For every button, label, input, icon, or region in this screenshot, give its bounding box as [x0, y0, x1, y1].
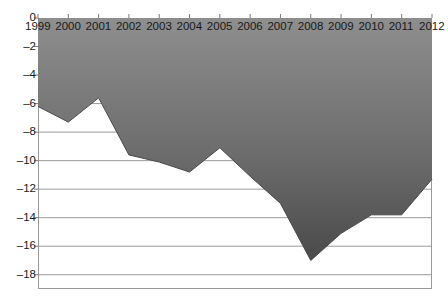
y-axis-tick-label: –14	[4, 212, 36, 223]
x-axis-tick-label: 2008	[298, 20, 324, 32]
y-axis-labels: 0–2–4–6–8–10–12–14–16–18	[0, 0, 36, 302]
x-axis-tick-label: 2000	[55, 20, 81, 32]
x-axis-tick-label: 2012	[419, 20, 445, 32]
x-axis-tick-label: 2007	[267, 20, 293, 32]
y-axis-tick-label: –10	[4, 155, 36, 166]
x-axis-labels: 1999200020012002200320042005200620072008…	[0, 20, 448, 36]
y-axis-tick-label: –16	[4, 240, 36, 251]
area-series-fill	[38, 18, 432, 260]
y-axis-tick-label: –18	[4, 269, 36, 280]
x-axis-tick-label: 2009	[328, 20, 354, 32]
y-axis-tick-label: –6	[4, 98, 36, 109]
x-axis-tick-label: 2003	[146, 20, 172, 32]
x-tickmarks	[38, 14, 432, 18]
x-axis-tick-label: 2010	[358, 20, 384, 32]
x-axis-tick-label: 2006	[237, 20, 263, 32]
x-axis-tick-label: 2002	[116, 20, 142, 32]
chart-container: 0–2–4–6–8–10–12–14–16–18 199920002001200…	[0, 0, 448, 302]
y-axis-tick-label: –8	[4, 126, 36, 137]
x-axis-tick-label: 1999	[25, 20, 51, 32]
x-axis-tick-label: 2001	[86, 20, 112, 32]
y-axis-tick-label: –2	[4, 41, 36, 52]
x-axis-tick-label: 2005	[207, 20, 233, 32]
chart-svg	[0, 0, 448, 302]
x-axis-tick-label: 2004	[177, 20, 203, 32]
y-axis-tick-label: –4	[4, 69, 36, 80]
x-axis-tick-label: 2011	[389, 20, 414, 32]
y-axis-tick-label: –12	[4, 183, 36, 194]
